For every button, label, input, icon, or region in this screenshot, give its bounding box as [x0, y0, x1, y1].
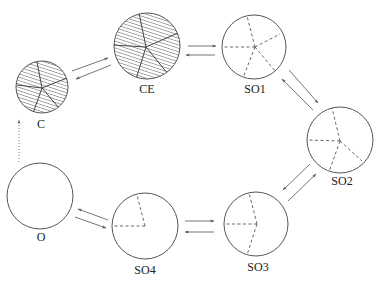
transition-arrow-c-to-ce — [72, 58, 108, 71]
transition-arrow-so1-to-so2 — [289, 70, 318, 103]
node-so1 — [222, 15, 286, 79]
node-label-c: C — [37, 118, 45, 130]
node-label-o: O — [37, 231, 46, 243]
node-label-so1: SO1 — [244, 83, 265, 95]
node-so3 — [224, 192, 288, 256]
nodes-layer — [7, 13, 373, 259]
node-ce — [113, 13, 180, 79]
node-label-ce: CE — [139, 83, 154, 95]
transition-arrow-so2-to-so1 — [282, 79, 313, 110]
node-so2 — [307, 107, 373, 173]
transition-arrow-so2-to-so3 — [283, 164, 310, 190]
transition-arrow-ce-to-c — [76, 65, 111, 79]
node-label-so2: SO2 — [331, 175, 352, 187]
node-c — [16, 61, 68, 113]
node-o — [7, 163, 73, 229]
state-circle — [7, 163, 73, 229]
node-label-so4: SO4 — [134, 264, 155, 276]
state-transition-diagram — [0, 0, 381, 290]
transition-arrow-o-to-so4 — [75, 217, 106, 228]
node-so4 — [112, 193, 178, 259]
node-label-so3: SO3 — [247, 261, 268, 273]
transition-arrow-so4-to-o — [78, 209, 108, 220]
transition-arrow-so3-to-so2 — [288, 174, 316, 201]
